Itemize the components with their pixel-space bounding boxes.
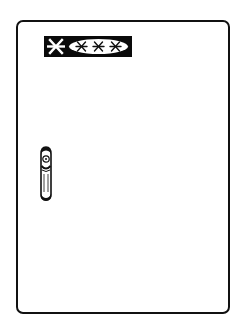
top-caption-fragment: [0, 0, 244, 4]
star-rating-oval: [69, 39, 128, 54]
star-icon: [75, 40, 88, 53]
door-handle-icon[interactable]: [38, 146, 54, 202]
star-icon: [92, 40, 105, 53]
star-icon: [109, 40, 122, 53]
freezer-star-rating-label: [44, 36, 132, 57]
snowflake-icon: [47, 38, 65, 55]
appliance-door: [16, 20, 230, 314]
